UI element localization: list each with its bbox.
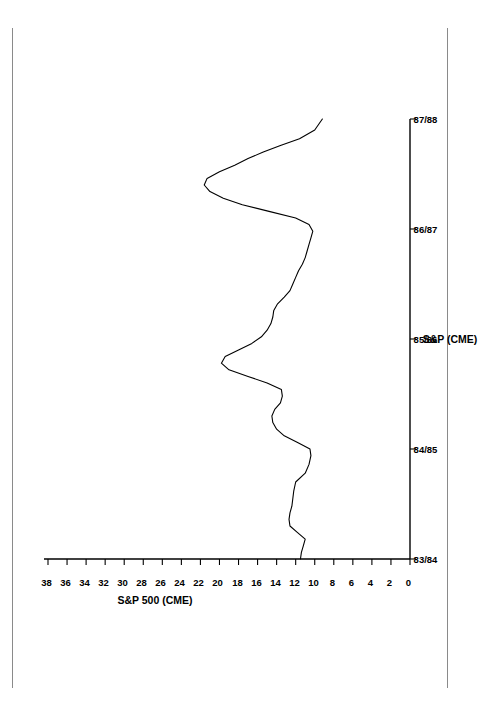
category-tick-label: 86/87 xyxy=(409,224,443,235)
category-tick-label: 85/86 xyxy=(409,334,443,345)
category-tick-label: 87/88 xyxy=(409,114,443,125)
chart-plot-area xyxy=(30,97,430,617)
value-tick-label: 38 xyxy=(34,577,60,588)
category-tick-label: 84/85 xyxy=(409,444,443,455)
data-series-line xyxy=(204,119,322,559)
page-rule-right xyxy=(447,28,448,688)
chart-figure: S&P 500 (CME) S&P (CME) 0246810121416182… xyxy=(30,97,430,617)
page-rule-left xyxy=(12,28,13,688)
category-tick-label: 83/84 xyxy=(409,554,443,565)
axes-group xyxy=(44,119,416,565)
